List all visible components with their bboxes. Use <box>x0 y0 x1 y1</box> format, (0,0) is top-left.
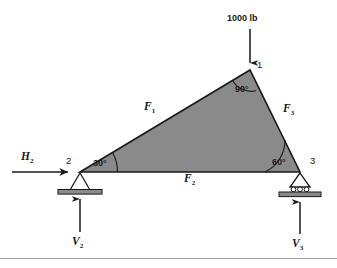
applied-load-label: 1000 lb <box>227 14 258 23</box>
support-node-2-pinned <box>58 173 102 194</box>
angle-label-node-3: 60° <box>272 158 286 167</box>
node-label-1: 1 <box>257 60 262 70</box>
member-label-f2: F2 <box>184 173 195 187</box>
member-f3-subscript: 3 <box>291 109 295 117</box>
member-f2-symbol: F <box>184 172 192 184</box>
member-label-f1: F1 <box>144 101 155 115</box>
member-f1-symbol: F <box>144 100 152 112</box>
reaction-v2-symbol: V <box>72 235 80 247</box>
member-label-f3: F3 <box>283 103 294 117</box>
member-f2-subscript: 2 <box>192 179 196 187</box>
member-f1-subscript: 1 <box>152 107 156 115</box>
truss-triangle-body <box>80 70 300 172</box>
node-label-2: 2 <box>66 156 71 166</box>
member-f3-symbol: F <box>283 102 291 114</box>
angle-label-node-2: 30° <box>93 159 107 168</box>
reaction-label-h2: H2 <box>21 151 33 165</box>
reaction-v2-subscript: 2 <box>80 242 84 250</box>
reaction-v3-subscript: 3 <box>300 244 304 252</box>
reaction-v3-symbol: V <box>292 237 300 249</box>
reaction-label-v2: V2 <box>72 236 83 250</box>
support-node-3-roller <box>279 173 321 197</box>
reaction-h2-subscript: 2 <box>30 157 34 165</box>
reaction-h2-symbol: H <box>21 150 30 162</box>
truss-diagram-canvas <box>0 0 337 268</box>
reaction-label-v3: V3 <box>292 238 303 252</box>
truss-diagram-figure: 1000 lb 1 2 3 90° 30° 60° F1 F2 F3 H2 V2… <box>0 0 337 268</box>
node-label-3: 3 <box>310 156 315 166</box>
angle-label-node-1: 90° <box>235 85 249 94</box>
footer-divider <box>0 258 337 259</box>
